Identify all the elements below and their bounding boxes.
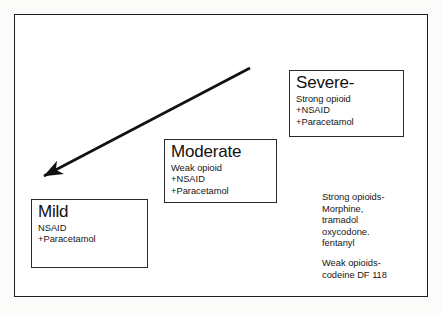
severity-card-severe[interactable]: Severe- Strong opioid +NSAID +Paracetamo…: [289, 70, 404, 137]
severity-card-severe-title: Severe-: [296, 73, 398, 93]
severity-card-mild-line-1: NSAID: [38, 223, 142, 234]
severity-card-moderate-line-2: +NSAID: [171, 174, 271, 185]
opioid-notes: Strong opioids- Morphine, tramadol oxyco…: [322, 192, 426, 281]
strong-opioids-note: Strong opioids- Morphine, tramadol oxyco…: [322, 192, 426, 250]
severity-card-moderate-title: Moderate: [171, 142, 271, 162]
severity-card-mild-title: Mild: [38, 202, 142, 222]
strong-opioids-note-line-5: fentanyl: [322, 238, 426, 250]
strong-opioids-note-line-4: oxycodone.: [322, 227, 426, 239]
severity-card-moderate-line-1: Weak opioid: [171, 163, 271, 174]
strong-opioids-note-line-3: tramadol: [322, 215, 426, 227]
severity-card-moderate[interactable]: Moderate Weak opioid +NSAID +Paracetamol: [164, 139, 277, 203]
severity-card-moderate-line-3: +Paracetamol: [171, 186, 271, 197]
weak-opioids-note: Weak opioids- codeine DF 118: [322, 258, 426, 281]
severity-card-severe-line-3: +Paracetamol: [296, 117, 398, 128]
severity-card-moderate-lines: Weak opioid +NSAID +Paracetamol: [171, 163, 271, 197]
severity-card-mild[interactable]: Mild NSAID +Paracetamol: [31, 199, 148, 268]
diagram-canvas: Severe- Strong opioid +NSAID +Paracetamo…: [0, 0, 443, 313]
severity-card-mild-line-2: +Paracetamol: [38, 234, 142, 245]
strong-opioids-note-line-1: Strong opioids-: [322, 192, 426, 204]
severity-card-mild-lines: NSAID +Paracetamol: [38, 223, 142, 246]
severity-card-severe-lines: Strong opioid +NSAID +Paracetamol: [296, 94, 398, 128]
weak-opioids-note-line-2: codeine DF 118: [322, 270, 426, 282]
severity-card-severe-line-1: Strong opioid: [296, 94, 398, 105]
strong-opioids-note-line-2: Morphine,: [322, 204, 426, 216]
weak-opioids-note-line-1: Weak opioids-: [322, 258, 426, 270]
severity-card-severe-line-2: +NSAID: [296, 105, 398, 116]
